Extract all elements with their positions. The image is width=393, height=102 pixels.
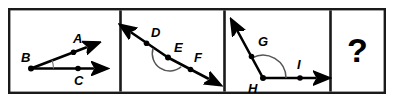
vertex-dot-h [260,75,266,81]
point-dot-d [144,40,150,46]
point-label-i: I [297,57,301,72]
point-label-f: F [194,50,203,65]
point-dot-f [188,67,194,73]
question-mark-label: ? [347,31,368,69]
point-dot-c [75,66,81,72]
point-label-a: A [72,31,82,46]
point-label-d: D [151,25,161,40]
angle-sequence-figure: A B C D E F [0,0,393,102]
point-dot-a [71,50,77,56]
point-label-e: E [174,40,183,55]
point-label-b: B [21,50,30,65]
point-label-g: G [258,34,268,49]
vertex-dot-e [165,55,171,61]
point-dot-i [297,75,303,81]
vertex-dot-b [28,66,34,72]
figure-canvas: A B C D E F [0,0,393,102]
point-dot-g [249,54,255,60]
point-label-h: H [248,81,258,96]
panel-4-unknown-placeholder: ? [347,31,368,69]
point-label-c: C [74,73,84,88]
